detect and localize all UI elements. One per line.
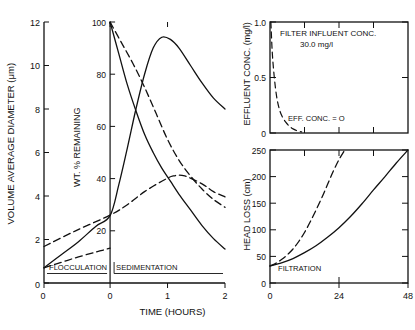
wt-percent-tick-label: 100 (92, 18, 106, 28)
figure-svg: 024681012VOLUME AVERAGE DIAMETER (μm)001… (0, 0, 415, 330)
filter-influent-conc-label: FILTER INFLUENT CONC. (280, 29, 376, 38)
effluent-y-axis-label: EFFLUENT CONC. (mg/l) (242, 22, 252, 125)
filtration-region-label: FILTRATION (278, 264, 321, 273)
main-y-tick-label: 6 (35, 148, 40, 158)
main-y-tick-label: 12 (30, 18, 40, 28)
head-loss-solid (270, 150, 408, 266)
sedimentation-region-label: SEDIMENTATION (116, 263, 177, 272)
headloss-x-tick-label: 24 (334, 291, 344, 301)
main-x-tick-label: 0 (108, 291, 113, 301)
wt-percent-remaining-solid (110, 22, 225, 249)
headloss-x-tick-label: 0 (267, 291, 272, 301)
main-x-tick-label: 1 (165, 291, 170, 301)
wt-percent-tick-label: 20 (97, 226, 107, 236)
effluent-y-tick-label: 0 (261, 129, 266, 139)
wt-percent-tick-label: 40 (97, 174, 107, 184)
eff-conc-zero-label: EFF. CONC. = O (288, 114, 345, 123)
effluent-y-tick-label: 0.5 (254, 73, 266, 83)
wt-percent-axis-label: WT. % REMAINING (72, 108, 82, 188)
wt-percent-tick-label: 60 (97, 122, 107, 132)
main-x-axis-label: TIME (HOURS) (140, 306, 206, 317)
main-y-tick-label: 8 (35, 105, 40, 115)
headloss-y-axis-label: HEAD LOSS (cm) (242, 178, 252, 250)
head-loss-dashed (270, 150, 345, 266)
main-x-tick-label: 2 (222, 291, 227, 301)
wt-percent-remaining-dashed-upper (110, 22, 225, 207)
headloss-y-tick-label: 0 (261, 279, 266, 289)
main-y-tick-label: 2 (35, 235, 40, 245)
headloss-y-tick-label: 100 (252, 225, 266, 235)
main-y-tick-label: 4 (35, 192, 40, 202)
headloss-y-tick-label: 50 (257, 252, 267, 262)
headloss-y-tick-label: 250 (252, 146, 266, 156)
main-x-tick-label: 0 (40, 291, 45, 301)
effluent-y-tick-label: 1.0 (254, 18, 266, 28)
headloss-y-tick-label: 150 (252, 199, 266, 209)
main-y-tick-label: 10 (30, 61, 40, 71)
main-y-axis-label: VOLUME AVERAGE DIAMETER (μm) (5, 63, 16, 225)
flocculation-region-label: FLOCCULATION (49, 263, 107, 272)
filter-influent-value-label: 30.0 mg/l (300, 40, 333, 49)
headloss-x-tick-label: 48 (403, 291, 413, 301)
main-y-tick-label: 0 (35, 280, 40, 290)
wt-percent-tick-label: 80 (97, 70, 107, 80)
headloss-y-tick-label: 200 (252, 172, 266, 182)
figure-container: 024681012VOLUME AVERAGE DIAMETER (μm)001… (0, 0, 415, 330)
